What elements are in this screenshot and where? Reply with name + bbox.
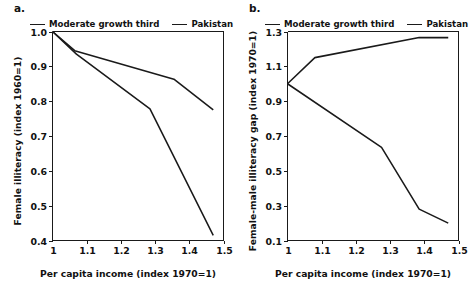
- y-tick-label: 1.1: [265, 61, 282, 72]
- x-tick-label: 1.1: [314, 245, 331, 256]
- series-line-pakistan: [53, 32, 214, 110]
- y-tick-label: 0.3: [265, 201, 282, 212]
- y-tick-label: 1.0: [30, 27, 47, 38]
- y-tick-label: 0.9: [30, 61, 47, 72]
- x-tick-label: 1.2: [113, 245, 130, 256]
- x-tick-label: 1: [50, 245, 57, 256]
- x-tick-label: 1.5: [216, 245, 233, 256]
- x-tick-label: 1.3: [147, 245, 164, 256]
- y-tick-label: 0.5: [265, 166, 282, 177]
- y-tick-label: 0.8: [30, 96, 47, 107]
- y-tick-label: 0.6: [30, 166, 47, 177]
- axis-frame: [288, 32, 459, 241]
- y-tick-label: 1.3: [265, 27, 282, 38]
- x-axis-label-b: Per capita income (index 1970=1): [255, 268, 471, 279]
- y-tick-label: 0.7: [30, 131, 47, 142]
- x-tick-label: 1.4: [181, 245, 198, 256]
- x-tick-label: 1.2: [348, 245, 365, 256]
- chart-panel-b: b. Moderate growth third Pakistan Female…: [235, 0, 471, 282]
- series-line-moderate-growth-third: [53, 32, 214, 236]
- x-tick-label: 1.1: [79, 245, 96, 256]
- axis-frame: [53, 32, 224, 241]
- x-axis-label-a: Per capita income (index 1970=1): [20, 268, 236, 279]
- y-tick-label: 0.7: [265, 131, 282, 142]
- y-tick-label: 0.1: [265, 236, 282, 247]
- series-line-moderate-growth-third: [288, 84, 449, 223]
- x-tick-label: 1: [285, 245, 292, 256]
- x-tick-label: 1.5: [451, 245, 468, 256]
- x-tick-label: 1.4: [416, 245, 433, 256]
- y-tick-label: 0.9: [265, 96, 282, 107]
- figure-container: a. Moderate growth third Pakistan Female…: [0, 0, 471, 282]
- y-tick-label: 0.4: [30, 236, 47, 247]
- series-line-pakistan: [288, 38, 449, 84]
- chart-panel-a: a. Moderate growth third Pakistan Female…: [0, 0, 236, 282]
- x-tick-label: 1.3: [382, 245, 399, 256]
- plot-area-a: 0.40.50.60.70.80.91.011.11.21.31.41.5: [0, 0, 236, 282]
- plot-area-b: 0.10.30.50.70.91.11.311.11.21.31.41.5: [235, 0, 471, 282]
- y-tick-label: 0.5: [30, 201, 47, 212]
